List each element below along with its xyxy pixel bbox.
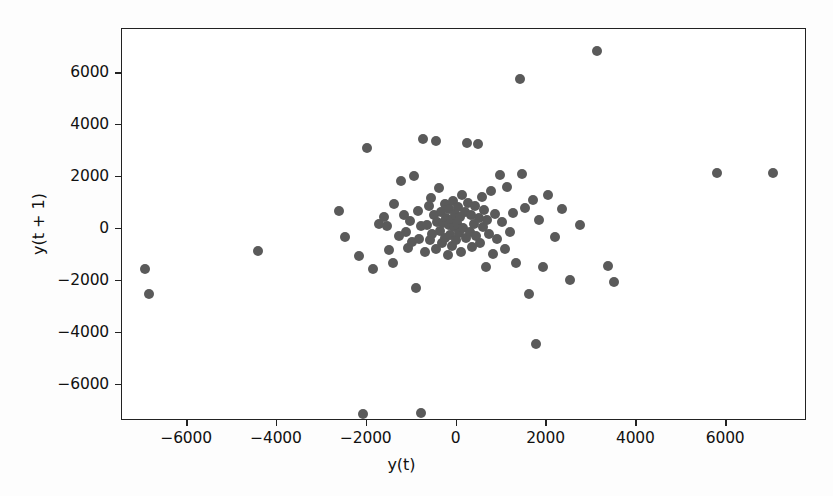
scatter-point [550, 232, 560, 242]
scatter-point [511, 258, 521, 268]
scatter-point [411, 283, 421, 293]
scatter-point [531, 339, 541, 349]
x-tick-label: 4000 [616, 429, 655, 447]
y-tick-mark [115, 228, 121, 229]
x-axis-label: y(t) [0, 455, 833, 474]
scatter-point [362, 143, 372, 153]
scatter-point [401, 227, 411, 237]
scatter-point [416, 408, 426, 418]
scatter-point [524, 289, 534, 299]
x-tick-label: −6000 [160, 429, 211, 447]
scatter-point [500, 244, 510, 254]
y-tick-mark [115, 124, 121, 125]
scatter-point [543, 190, 553, 200]
scatter-point [396, 176, 406, 186]
scatter-point [486, 186, 496, 196]
scatter-point [557, 204, 567, 214]
scatter-point [414, 234, 424, 244]
scatter-point [475, 238, 485, 248]
scatter-point [413, 206, 423, 216]
scatter-point [443, 250, 453, 260]
scatter-point [368, 264, 378, 274]
scatter-point [462, 138, 472, 148]
scatter-point [538, 262, 548, 272]
x-tick-label: 6000 [706, 429, 745, 447]
scatter-plot-figure: −6000−4000−20000200040006000 −6000−4000−… [0, 0, 833, 496]
x-tick-mark [725, 420, 726, 426]
scatter-point [712, 168, 722, 178]
scatter-point [389, 199, 399, 209]
scatter-point [477, 192, 487, 202]
y-tick-label: 0 [99, 219, 109, 237]
x-axis-label-text: y(t) [387, 455, 415, 474]
scatter-point [358, 409, 368, 419]
x-tick-label: −4000 [250, 429, 301, 447]
scatter-point [253, 246, 263, 256]
y-axis-label: y(t + 1) [29, 193, 48, 255]
y-tick-mark [115, 72, 121, 73]
y-tick-label: 6000 [70, 63, 109, 81]
x-tick-label: −2000 [340, 429, 391, 447]
scatter-point [420, 247, 430, 257]
x-tick-label: 2000 [526, 429, 565, 447]
scatter-point [456, 247, 466, 257]
y-tick-mark [115, 280, 121, 281]
scatter-point [534, 215, 544, 225]
y-tick-label: −6000 [58, 375, 109, 393]
scatter-point [520, 203, 530, 213]
scatter-point [431, 136, 441, 146]
y-tick-label: −2000 [58, 271, 109, 289]
x-tick-mark [635, 420, 636, 426]
x-tick-label: 0 [451, 429, 461, 447]
y-tick-mark [115, 332, 121, 333]
scatter-point [609, 277, 619, 287]
scatter-point [488, 249, 498, 259]
scatter-point [140, 264, 150, 274]
scatter-point [409, 171, 419, 181]
scatter-point [354, 251, 364, 261]
scatter-point [405, 216, 415, 226]
scatter-point [388, 258, 398, 268]
scatter-point [505, 227, 515, 237]
scatter-point [528, 195, 538, 205]
scatter-point [768, 168, 778, 178]
scatter-point [508, 208, 518, 218]
scatter-point [515, 74, 525, 84]
scatter-point [592, 46, 602, 56]
scatter-points-layer [122, 29, 805, 419]
scatter-point [502, 182, 512, 192]
x-tick-mark [366, 420, 367, 426]
y-tick-label: −4000 [58, 323, 109, 341]
scatter-point [144, 289, 154, 299]
scatter-point [603, 261, 613, 271]
scatter-point [479, 205, 489, 215]
scatter-point [334, 206, 344, 216]
scatter-point [340, 232, 350, 242]
y-tick-mark [115, 384, 121, 385]
scatter-point [495, 170, 505, 180]
plot-area [121, 28, 806, 420]
scatter-point [565, 275, 575, 285]
scatter-point [473, 139, 483, 149]
scatter-point [575, 220, 585, 230]
scatter-point [492, 234, 502, 244]
scatter-point [382, 221, 392, 231]
scatter-point [434, 183, 444, 193]
scatter-point [418, 134, 428, 144]
y-tick-label: 4000 [70, 115, 109, 133]
x-tick-mark [545, 420, 546, 426]
x-tick-mark [186, 420, 187, 426]
y-tick-mark [115, 176, 121, 177]
scatter-point [497, 217, 507, 227]
x-tick-mark [276, 420, 277, 426]
x-tick-mark [456, 420, 457, 426]
y-tick-label: 2000 [70, 167, 109, 185]
scatter-point [426, 193, 436, 203]
scatter-point [517, 169, 527, 179]
scatter-point [481, 262, 491, 272]
scatter-point [384, 245, 394, 255]
